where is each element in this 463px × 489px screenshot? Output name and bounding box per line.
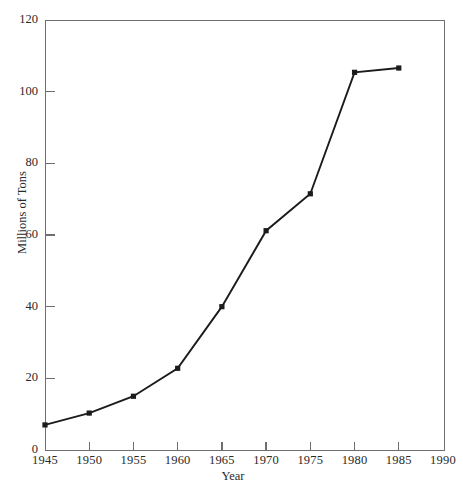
series-markers [42, 65, 401, 427]
data-series-layer [0, 0, 463, 489]
line-chart-figure: 020406080100120 194519501955196019651970… [0, 0, 463, 489]
series-line [45, 68, 399, 425]
data-point-marker [42, 422, 47, 427]
data-point-marker [87, 410, 92, 415]
data-point-marker [308, 191, 313, 196]
data-point-marker [219, 304, 224, 309]
data-point-marker [175, 366, 180, 371]
data-point-marker [131, 394, 136, 399]
data-point-marker [264, 228, 269, 233]
data-point-marker [352, 70, 357, 75]
data-point-marker [396, 65, 401, 70]
